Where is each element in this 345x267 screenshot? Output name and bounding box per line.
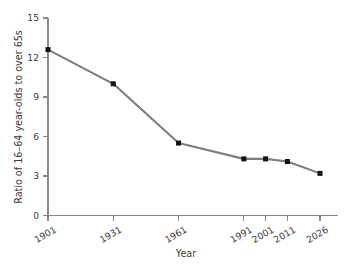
y-tick-label: 0 (33, 210, 39, 221)
x-tick-label: 1901 (32, 224, 58, 245)
data-point-marker (241, 156, 246, 161)
y-tick-label: 9 (33, 91, 39, 102)
chart-figure: 03691215 1901193119611991200120112026 Ye… (0, 0, 345, 267)
series-line-ratio (48, 50, 320, 174)
data-point-marker (46, 47, 51, 52)
data-point-marker (111, 81, 116, 86)
series-markers (46, 47, 323, 176)
x-tick-label: 2026 (304, 224, 330, 245)
x-tick-labels: 1901193119611991200120112026 (32, 224, 330, 245)
y-tick-label: 12 (27, 52, 39, 63)
x-tick-label: 1931 (98, 224, 124, 245)
x-tick-marks (48, 216, 320, 221)
x-tick-label: 2011 (272, 224, 298, 245)
y-tick-label: 15 (27, 12, 39, 23)
data-point-marker (176, 141, 181, 146)
data-point-marker (263, 156, 268, 161)
y-tick-labels: 03691215 (27, 12, 39, 221)
data-point-marker (318, 171, 323, 176)
data-point-marker (285, 159, 290, 164)
x-tick-label: 1961 (163, 224, 189, 245)
x-axis-title: Year (175, 248, 196, 259)
y-tick-label: 6 (33, 131, 39, 142)
y-axis-title: Ratio of 16–64 year-olds to over 65s (13, 30, 24, 204)
y-tick-label: 3 (33, 170, 39, 181)
line-chart: 03691215 1901193119611991200120112026 Ye… (0, 0, 345, 267)
